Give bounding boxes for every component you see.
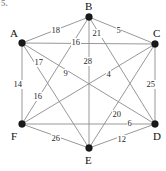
vertex-label-d: D — [153, 131, 161, 142]
edge-weight-c-d: 25 — [146, 80, 156, 89]
edge-weight-b-c: 5 — [116, 26, 121, 35]
edge-weight-b-e: 28 — [83, 57, 93, 66]
vertex-label-c: C — [153, 28, 160, 39]
vertex-label-b: B — [85, 1, 92, 12]
vertex-f — [19, 121, 26, 128]
vertex-e — [86, 145, 93, 152]
vertex-a — [19, 40, 26, 47]
edge-weight-a-e: 16 — [33, 92, 43, 101]
edge-weight-c-e: 20 — [112, 110, 122, 119]
graph-canvas — [0, 0, 166, 171]
vertex-label-e: E — [85, 155, 92, 166]
graph-figure: 5. ABCDEF 18161716145289212542061226 — [0, 0, 166, 171]
edge-weight-e-f: 26 — [51, 134, 61, 143]
edge-weight-a-b: 18 — [51, 26, 61, 35]
edge-weight-a-c: 16 — [71, 38, 81, 47]
edge-weight-c-f: 4 — [106, 70, 111, 79]
edge-weight-b-f: 9 — [63, 69, 68, 78]
edge-a-c — [22, 43, 155, 44]
vertex-label-f: F — [11, 131, 17, 142]
edge-c-e — [89, 44, 155, 148]
edge-weight-a-f: 14 — [13, 80, 23, 89]
edge-weight-a-d: 17 — [34, 58, 44, 67]
edge-weight-d-f: 6 — [127, 119, 132, 128]
edge-weight-b-d: 21 — [92, 29, 102, 38]
vertex-b — [86, 14, 93, 21]
edge-weight-d-e: 12 — [117, 135, 127, 144]
vertex-label-a: A — [10, 28, 18, 39]
vertex-d — [152, 121, 159, 128]
vertex-c — [152, 41, 159, 48]
edges-group — [22, 17, 155, 148]
